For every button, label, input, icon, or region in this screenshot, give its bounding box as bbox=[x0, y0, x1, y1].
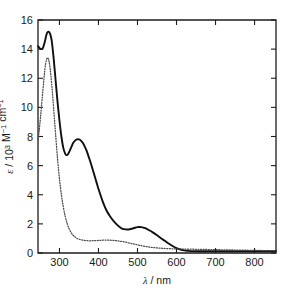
y-axis-ticks bbox=[38, 20, 276, 253]
x-tick-label: 300 bbox=[50, 256, 68, 268]
x-axis-title-text: λ / nm bbox=[142, 274, 171, 286]
axis-frame bbox=[38, 20, 276, 253]
x-axis-ticks bbox=[59, 20, 254, 253]
data-series-layer bbox=[38, 32, 276, 252]
series-dotted-spectrum bbox=[38, 58, 276, 251]
chart-canvas: 300400500600700800 0246810121416 λ / nm … bbox=[0, 0, 293, 293]
x-tick-label: 800 bbox=[245, 256, 263, 268]
y-tick-label: 12 bbox=[21, 72, 33, 84]
uv-vis-spectrum-figure: 300400500600700800 0246810121416 λ / nm … bbox=[0, 0, 293, 293]
y-axis-title-text: ε / 103 M−1 cm−1 bbox=[0, 99, 15, 173]
x-tick-label: 400 bbox=[89, 256, 107, 268]
y-tick-label: 0 bbox=[27, 247, 33, 259]
x-tick-label: 500 bbox=[128, 256, 146, 268]
x-axis-tick-labels: 300400500600700800 bbox=[50, 256, 263, 268]
y-tick-label: 10 bbox=[21, 101, 33, 113]
y-tick-label: 2 bbox=[27, 218, 33, 230]
y-tick-label: 4 bbox=[27, 189, 33, 201]
x-axis-title: λ / nm bbox=[142, 274, 171, 286]
y-tick-label: 8 bbox=[27, 131, 33, 143]
series-solid-spectrum bbox=[38, 32, 276, 252]
y-tick-label: 14 bbox=[21, 43, 33, 55]
y-tick-label: 16 bbox=[21, 14, 33, 26]
y-axis-tick-labels: 0246810121416 bbox=[21, 14, 33, 259]
y-tick-label: 6 bbox=[27, 160, 33, 172]
plot-frame bbox=[38, 20, 276, 253]
x-tick-label: 600 bbox=[167, 256, 185, 268]
y-axis-title: ε / 103 M−1 cm−1 bbox=[0, 99, 15, 173]
x-tick-label: 700 bbox=[206, 256, 224, 268]
